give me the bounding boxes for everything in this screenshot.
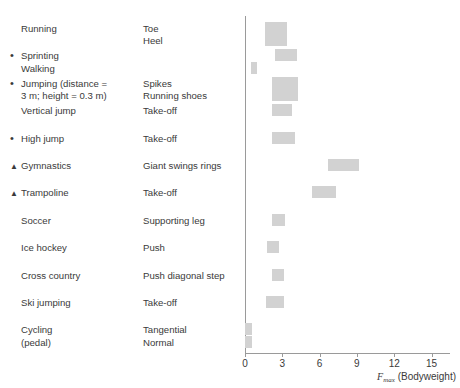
phase-label: TangentialNormal — [143, 324, 235, 348]
x-axis-unit: (Bodyweight) — [395, 371, 456, 382]
activity-label: Vertical jump — [21, 105, 141, 117]
phase-label-line2: Heel — [143, 35, 235, 47]
range-bar — [265, 22, 287, 34]
triangle-marker-icon: ▲ — [10, 160, 20, 173]
activity-label: Running — [21, 23, 141, 35]
x-tick — [394, 353, 395, 357]
range-bar — [272, 132, 294, 144]
x-tick-label: 3 — [270, 358, 294, 370]
x-tick-label: 15 — [420, 358, 444, 370]
plot-area: 03691215 Fmax (Bodyweight) — [232, 0, 460, 388]
row-label-column: RunningToeHeel•SprintingWalking•Jumping … — [0, 0, 232, 388]
phase-label: Supporting leg — [143, 215, 235, 227]
dot-marker-icon: • — [10, 50, 20, 62]
activity-label: Trampoline — [21, 187, 141, 199]
range-bar — [251, 62, 257, 74]
phase-label: Take-off — [143, 297, 235, 309]
phase-label: ToeHeel — [143, 23, 235, 47]
range-bar — [272, 104, 292, 116]
y-axis-line — [245, 16, 246, 354]
x-tick-label: 12 — [382, 358, 406, 370]
range-bar — [266, 296, 283, 308]
range-bar — [275, 49, 297, 61]
phase-label: Push — [143, 242, 235, 254]
x-axis-symbol-subscript: max — [383, 376, 395, 384]
activity-label: Soccer — [21, 215, 141, 227]
range-bar — [245, 323, 252, 335]
range-bar — [272, 269, 283, 281]
activity-label: Gymnastics — [21, 160, 141, 172]
activity-label: Cross country — [21, 270, 141, 282]
x-tick — [282, 353, 283, 357]
phase-label: SpikesRunning shoes — [143, 78, 235, 102]
phase-label-line2: Normal — [143, 337, 235, 349]
activity-label: Ski jumping — [21, 297, 141, 309]
range-bar — [267, 241, 278, 253]
range-bar — [272, 89, 298, 101]
x-tick — [432, 353, 433, 357]
x-axis-symbol: Fmax — [377, 371, 395, 382]
dot-marker-icon: • — [10, 78, 20, 90]
range-bar — [272, 77, 298, 89]
phase-label: Take-off — [143, 187, 235, 199]
triangle-marker-icon: ▲ — [10, 187, 20, 200]
x-tick-label: 6 — [308, 358, 332, 370]
range-bar — [312, 186, 336, 198]
range-bar — [272, 214, 284, 226]
x-tick-label: 9 — [345, 358, 369, 370]
activity-label-line2: Walking — [21, 63, 141, 75]
activity-label: SprintingWalking — [21, 50, 141, 74]
activity-label: High jump — [21, 133, 141, 145]
range-bar — [328, 159, 359, 171]
phase-label: Take-off — [143, 105, 235, 117]
x-tick — [357, 353, 358, 357]
phase-label-line2: Running shoes — [143, 90, 235, 102]
x-tick-label: 0 — [233, 358, 257, 370]
activity-label-line2: (pedal) — [21, 337, 141, 349]
range-bar — [245, 336, 252, 348]
activity-label: Cycling(pedal) — [21, 324, 141, 348]
x-axis-line — [245, 353, 450, 354]
activity-label: Jumping (distance =3 m; height = 0.3 m) — [21, 78, 141, 102]
activity-label-line2: 3 m; height = 0.3 m) — [21, 90, 141, 102]
activity-label: Ice hockey — [21, 242, 141, 254]
phase-label: Take-off — [143, 133, 235, 145]
x-tick — [320, 353, 321, 357]
x-tick — [245, 353, 246, 357]
phase-label: Push diagonal step — [143, 270, 235, 282]
range-bar — [265, 34, 287, 46]
chart-figure: RunningToeHeel•SprintingWalking•Jumping … — [0, 0, 460, 388]
x-axis-title: Fmax (Bodyweight) — [232, 371, 456, 384]
phase-label: Giant swings rings — [143, 160, 235, 172]
dot-marker-icon: • — [10, 133, 20, 145]
